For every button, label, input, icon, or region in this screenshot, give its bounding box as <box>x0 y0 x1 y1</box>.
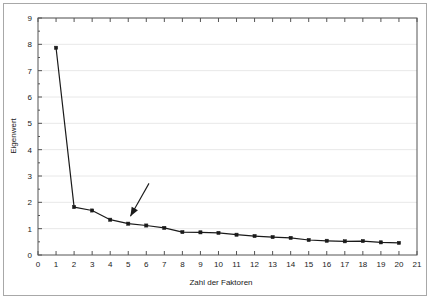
x-tick-label-21: 21 <box>413 260 422 269</box>
x-tick-label-4: 4 <box>108 260 113 269</box>
data-point-18 <box>361 239 364 242</box>
x-tick-label-18: 18 <box>358 260 367 269</box>
scree-plot-canvas: 0123456789101112131415161718192021 01234… <box>0 0 431 300</box>
x-tick-label-14: 14 <box>286 260 295 269</box>
x-axis-title: Zahl der Faktoren <box>189 278 252 287</box>
y-tick-label-5: 5 <box>28 119 33 128</box>
data-point-4 <box>109 218 112 221</box>
data-point-6 <box>145 224 148 227</box>
gridlines-group <box>38 18 417 229</box>
x-tick-label-20: 20 <box>394 260 403 269</box>
annotations-group <box>130 183 149 216</box>
eigenvalue-line <box>56 48 399 243</box>
y-tick-label-9: 9 <box>28 14 33 23</box>
data-point-7 <box>163 226 166 229</box>
data-point-14 <box>289 236 292 239</box>
data-point-12 <box>253 234 256 237</box>
y-tick-label-7: 7 <box>28 67 33 76</box>
data-point-9 <box>199 231 202 234</box>
plot-area-box <box>38 18 417 255</box>
x-tick-label-7: 7 <box>162 260 167 269</box>
x-tick-label-10: 10 <box>214 260 223 269</box>
data-point-19 <box>379 241 382 244</box>
y-tick-label-1: 1 <box>28 225 33 234</box>
x-tick-label-6: 6 <box>144 260 149 269</box>
x-axis-tick-labels: 0123456789101112131415161718192021 <box>36 260 422 269</box>
elbow-arrow-head <box>130 207 138 217</box>
x-tick-label-8: 8 <box>180 260 185 269</box>
eigenvalue-polyline <box>56 48 399 243</box>
x-axis-ticks <box>38 18 417 255</box>
data-point-1 <box>54 46 57 49</box>
y-tick-label-4: 4 <box>28 146 33 155</box>
data-point-3 <box>91 209 94 212</box>
data-point-5 <box>127 222 130 225</box>
y-axis-tick-labels: 0123456789 <box>28 14 33 260</box>
plot-frame <box>38 18 417 255</box>
data-point-17 <box>343 240 346 243</box>
data-point-2 <box>72 205 75 208</box>
x-tick-label-11: 11 <box>232 260 241 269</box>
x-tick-label-15: 15 <box>304 260 313 269</box>
data-point-8 <box>181 230 184 233</box>
y-tick-label-0: 0 <box>28 251 33 260</box>
x-tick-label-3: 3 <box>90 260 95 269</box>
x-tick-label-2: 2 <box>72 260 77 269</box>
x-tick-label-0: 0 <box>36 260 41 269</box>
data-point-11 <box>235 233 238 236</box>
data-point-10 <box>217 231 220 234</box>
x-tick-label-5: 5 <box>126 260 131 269</box>
y-axis-ticks <box>38 18 42 255</box>
scree-plot-figure: 0123456789101112131415161718192021 01234… <box>0 0 431 300</box>
x-tick-label-1: 1 <box>54 260 59 269</box>
y-tick-label-2: 2 <box>28 198 33 207</box>
x-tick-label-16: 16 <box>322 260 331 269</box>
x-tick-label-13: 13 <box>268 260 277 269</box>
y-tick-label-6: 6 <box>28 93 33 102</box>
y-tick-label-3: 3 <box>28 172 33 181</box>
data-point-20 <box>397 241 400 244</box>
data-point-16 <box>325 239 328 242</box>
x-tick-label-9: 9 <box>198 260 203 269</box>
x-tick-label-19: 19 <box>376 260 385 269</box>
y-axis-title: Eigenwert <box>9 117 18 153</box>
data-point-15 <box>307 238 310 241</box>
x-tick-label-17: 17 <box>340 260 349 269</box>
y-tick-label-8: 8 <box>28 40 33 49</box>
data-point-13 <box>271 235 274 238</box>
x-tick-label-12: 12 <box>250 260 259 269</box>
eigenvalue-markers <box>54 46 400 244</box>
